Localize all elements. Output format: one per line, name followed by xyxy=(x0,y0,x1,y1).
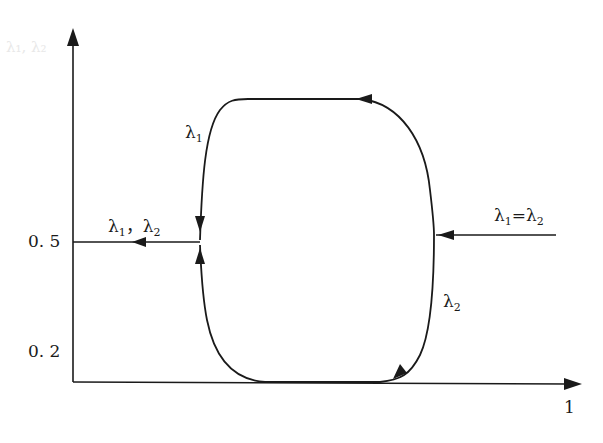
label-lambda2-right: λ2 xyxy=(443,291,461,314)
y-tick-0-2: 0. 2 xyxy=(28,341,60,361)
x-axis xyxy=(73,378,582,390)
cycle-loop xyxy=(200,99,434,382)
junction-up-arrow-icon xyxy=(195,248,205,264)
x-axis-arrow-icon xyxy=(564,378,582,390)
y-axis xyxy=(67,28,79,382)
junction-down-arrow-icon xyxy=(195,216,205,232)
x-tick-1: 1 xyxy=(564,397,575,417)
y-axis-faint-label: λ₁, λ₂ xyxy=(6,38,47,56)
top-arrow-icon xyxy=(356,94,372,104)
label-lambda1-top: λ1 xyxy=(185,122,203,145)
right-input-arrow-icon xyxy=(438,230,454,240)
right-input xyxy=(436,230,556,240)
label-lambda1-lambda2-left: λ1，λ2 xyxy=(108,212,161,239)
y-axis-arrow-icon xyxy=(67,28,79,46)
label-lambda1-eq-lambda2: λ1=λ2 xyxy=(494,205,544,228)
y-tick-0-5: 0. 5 xyxy=(28,231,60,251)
